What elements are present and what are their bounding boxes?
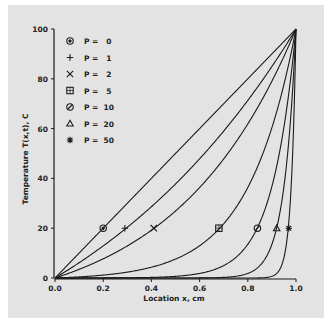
x-tick-label: 1.0 — [289, 284, 302, 293]
legend: P = 0P = 1P = 2P = 5P = 10P = 20P = 50 — [67, 37, 114, 145]
triangle-legend-icon — [67, 120, 73, 126]
legend-label: P = 20 — [84, 120, 114, 129]
line-chart: 0204060801000.00.20.40.60.81.0 P = 0P = … — [8, 5, 324, 318]
y-tick-label: 20 — [38, 224, 48, 233]
y-tick-label: 100 — [32, 25, 48, 34]
x-tick-label: 0.8 — [241, 284, 254, 293]
asterisk-legend-icon — [67, 137, 73, 143]
y-tick-label: 40 — [38, 174, 48, 183]
asterisk-marker-icon — [286, 225, 292, 231]
legend-label: P = 10 — [84, 103, 114, 112]
plus-legend-icon — [67, 54, 73, 60]
x-legend-icon — [67, 71, 73, 77]
x-axis-title: Location x, cm — [143, 294, 204, 303]
x-tick-label: 0.4 — [145, 284, 158, 293]
x-tick-label: 0.2 — [97, 284, 110, 293]
y-tick-label: 60 — [38, 125, 48, 134]
curve-p-0 — [55, 29, 296, 278]
x-tick-label: 0.6 — [193, 284, 206, 293]
chart-panel: 0204060801000.00.20.40.60.81.0 P = 0P = … — [8, 5, 324, 318]
diamond-circle-marker-icon — [100, 225, 106, 231]
x-marker-icon — [151, 225, 157, 231]
x-tick-label: 0.0 — [48, 284, 61, 293]
legend-label: P = 50 — [84, 136, 114, 145]
y-tick-label: 0 — [43, 274, 48, 283]
circle-slash-legend-icon — [67, 104, 73, 110]
axes: 0204060801000.00.20.40.60.81.0 — [32, 25, 302, 293]
y-tick-label: 80 — [38, 75, 48, 84]
legend-label: P = 0 — [84, 37, 111, 46]
legend-label: P = 2 — [84, 70, 111, 79]
curves — [55, 29, 296, 278]
legend-label: P = 5 — [84, 87, 111, 96]
square-legend-icon — [67, 87, 73, 93]
y-axis-title: Temperature T(x,t), C — [21, 113, 30, 204]
legend-label: P = 1 — [84, 54, 111, 63]
circle-slash-marker-icon — [254, 225, 260, 231]
diamond-circle-legend-icon — [67, 38, 73, 44]
